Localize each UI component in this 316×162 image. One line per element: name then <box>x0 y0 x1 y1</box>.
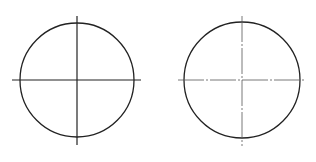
diagram-canvas <box>0 0 316 162</box>
figure-left-solid-centerlines <box>12 16 141 145</box>
circle-centerline-diagram <box>0 0 316 162</box>
figure-right-dashdot-centerlines <box>178 16 305 146</box>
